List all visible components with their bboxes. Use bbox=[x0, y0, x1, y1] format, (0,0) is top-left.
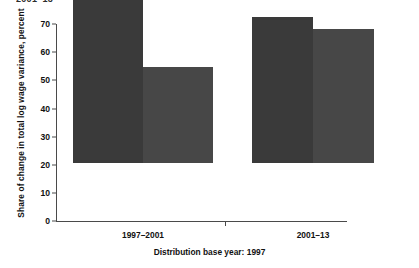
figure-caption: Distribution base year: 1997 bbox=[0, 247, 419, 257]
y-tick-label: 10 bbox=[40, 188, 50, 198]
x-axis-line bbox=[56, 221, 347, 222]
y-axis-title: Share of change in total log wage varian… bbox=[16, 8, 26, 218]
y-tick-label: 30 bbox=[40, 132, 50, 142]
y-tick-mark bbox=[52, 193, 56, 194]
y-axis-line bbox=[56, 24, 57, 221]
chart-figure: 2001–13 Share of change in total log wag… bbox=[0, 0, 419, 268]
x-axis-label-group-1: 1997–2001 bbox=[122, 230, 164, 240]
y-tick-mark bbox=[52, 221, 56, 222]
bar-group-2-series-2 bbox=[313, 29, 374, 163]
y-tick-mark bbox=[52, 137, 56, 138]
x-axis-label-group-2: 2001–13 bbox=[297, 230, 330, 240]
y-tick-mark bbox=[52, 109, 56, 110]
bar-group-1-series-1 bbox=[73, 0, 143, 163]
plot-area: 0 10 20 30 40 50 60 70 bbox=[56, 18, 408, 228]
y-tick-mark bbox=[52, 52, 56, 53]
y-tick-mark bbox=[52, 80, 56, 81]
y-tick-label: 60 bbox=[40, 47, 50, 57]
y-tick-label: 0 bbox=[45, 216, 50, 226]
y-tick-label: 70 bbox=[40, 19, 50, 29]
y-tick-mark bbox=[52, 165, 56, 166]
y-tick-label: 50 bbox=[40, 75, 50, 85]
bar-group-1-series-2 bbox=[143, 67, 213, 163]
y-tick-label: 20 bbox=[40, 160, 50, 170]
y-tick-label: 40 bbox=[40, 104, 50, 114]
y-tick-mark bbox=[52, 24, 56, 25]
x-axis-category-separator-tick bbox=[225, 222, 226, 226]
bar-group-2-series-1 bbox=[252, 17, 313, 163]
